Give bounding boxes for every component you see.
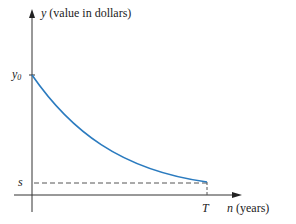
y-axis-label: y (value in dollars) [41, 7, 131, 19]
x-axis-label: n (years) [227, 202, 269, 214]
x-axis-text: (years) [233, 201, 269, 215]
depreciation-chart: y (value in dollars) y0 s T n (years) [0, 0, 296, 224]
t-label: T [202, 202, 209, 214]
decay-curve [32, 75, 207, 182]
y-axis-text: (value in dollars) [46, 6, 131, 20]
y0-sub: 0 [17, 73, 21, 82]
chart-plot [0, 0, 296, 224]
s-label: s [18, 176, 23, 188]
y0-label: y0 [12, 68, 21, 82]
y-axis-arrow-icon [29, 9, 35, 18]
x-axis-arrow-icon [232, 192, 242, 198]
